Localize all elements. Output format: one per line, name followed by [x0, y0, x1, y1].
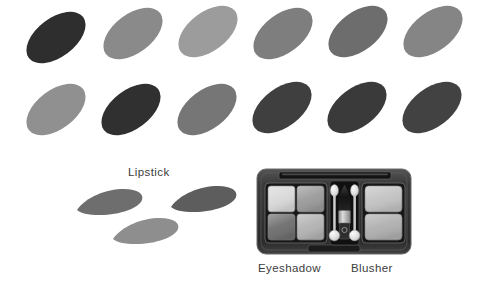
lipstick-group: Lipstick — [60, 163, 245, 263]
eyeshadow-pan-3-sheen — [268, 214, 295, 240]
palette-illustration — [256, 166, 412, 256]
palette-latch — [308, 245, 360, 252]
oval-swatch-10 — [243, 71, 321, 143]
oval-swatch-7 — [17, 73, 95, 145]
oval-swatch-5 — [319, 0, 397, 68]
oval-swatch-8 — [92, 73, 170, 145]
blusher-well-group — [362, 183, 405, 243]
palette-hinge — [279, 172, 391, 179]
eyeshadow-pan-4-sheen — [297, 214, 324, 240]
oval-swatch-3 — [169, 0, 247, 68]
oval-swatch-12 — [393, 71, 471, 143]
lipstick-swatch-1 — [76, 188, 144, 217]
oval-swatch-6 — [394, 0, 472, 68]
oval-swatch-11 — [318, 71, 396, 143]
lipstick-caption: Lipstick — [128, 166, 170, 178]
oval-swatch-9 — [168, 73, 246, 145]
blusher-caption: Blusher — [351, 262, 393, 274]
figure-canvas: Lipstick — [0, 0, 488, 299]
blusher-pan-2-sheen — [365, 214, 402, 240]
oval-swatch-grid — [0, 0, 488, 165]
makeup-palette — [256, 166, 412, 256]
eyeshadow-pan-2-sheen — [297, 186, 324, 212]
oval-swatch-2 — [94, 0, 172, 70]
lipstick-swatch-2 — [170, 185, 238, 214]
blusher-pan-1-sheen — [365, 186, 402, 212]
eyeshadow-well-group — [265, 183, 327, 243]
lipstick-swatch-3 — [112, 217, 180, 246]
oval-swatch-1 — [17, 1, 95, 73]
palette-caption-row: Eyeshadow Blusher — [256, 262, 416, 282]
oval-swatch-4 — [244, 0, 322, 70]
eyeshadow-caption: Eyeshadow — [258, 262, 321, 274]
eyeshadow-pan-1-sheen — [268, 186, 295, 212]
